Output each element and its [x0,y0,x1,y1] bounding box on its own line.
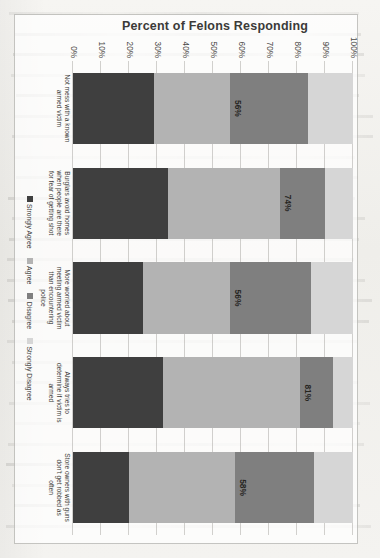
bar-column[interactable]: 56% [73,73,353,144]
bar-segment-agree[interactable] [129,452,235,523]
bar-segment-strongly-agree[interactable] [73,73,154,144]
bar-value-label: 58% [238,479,248,496]
bar-segment-strongly-disagree[interactable] [333,357,353,428]
chart-frame: Percent of Felons Responding 0%10%20%30%… [14,14,358,544]
y-axis-title: Percent of Felons Responding [73,17,357,35]
y-axis-tick-70: 70% [265,42,274,58]
legend-label: Strongly Agree [27,204,34,249]
bar-segment-strongly-agree[interactable] [73,168,168,239]
plot-area-wrapper: Percent of Felons Responding 0%10%20%30%… [15,15,357,543]
legend-item-strongly-disagree[interactable]: Strongly Disagree [27,338,34,401]
bar-column[interactable]: 74% [73,168,353,239]
bar-segment-strongly-agree[interactable] [73,262,143,333]
y-axis-tick-20: 20% [125,42,134,58]
x-axis-label-2: More worried about meeting armed victim … [39,262,71,333]
bar-segment-strongly-disagree[interactable] [311,262,353,333]
x-axis-label-1: Burglars avoid homes when people are the… [47,168,71,239]
y-axis-tick-0: 0% [69,46,78,58]
bar-segment-strongly-disagree[interactable] [325,168,353,239]
bar-segment-strongly-disagree[interactable] [314,452,353,523]
y-axis-tick-50: 50% [209,42,218,58]
legend-label: Disagree [27,302,34,329]
y-axis-title-text: Percent of Felons Responding [122,19,308,33]
bar-column[interactable]: 58% [73,452,353,523]
legend-label: Agree [27,266,34,284]
legend-swatch-icon [27,196,33,202]
bar-value-label: 56% [233,100,243,117]
x-axis-label-4: Store owners with guns don't get robbed … [47,452,71,523]
bar-column[interactable]: 81% [73,357,353,428]
bar-value-label: 81% [303,384,313,401]
bar-value-label: 56% [233,290,243,307]
plot-area: 56%74%56%81%58% [73,61,353,535]
y-axis-tick-30: 30% [153,42,162,58]
legend-swatch-icon [27,338,33,344]
bar-segment-strongly-agree[interactable] [73,452,129,523]
bar-segment-strongly-disagree[interactable] [308,73,353,144]
legend-label: Strongly Disagree [27,346,34,400]
chart-legend: Strongly AgreeAgreeDisagreeStrongly Disa… [21,61,39,535]
y-axis-tick-80: 80% [293,42,302,58]
x-axis-category-labels: Not mess with a known armed victimBurgla… [45,61,71,535]
legend-item-disagree[interactable]: Disagree [27,293,34,329]
y-axis-tick-labels: 0%10%20%30%40%50%60%70%80%90%100% [73,35,353,61]
y-axis-tick-10: 10% [97,42,106,58]
bar-column[interactable]: 56% [73,262,353,333]
rotated-chart-stage: Percent of Felons Responding 0%10%20%30%… [0,0,380,558]
bar-value-label: 74% [283,195,293,212]
legend-swatch-icon [27,293,33,299]
legend-swatch-icon [27,258,33,264]
bar-segment-agree[interactable] [154,73,230,144]
y-axis-tick-90: 90% [321,42,330,58]
x-axis-label-3: Always tries to determine if victim is a… [47,357,71,428]
bar-series-group: 56%74%56%81%58% [73,61,353,535]
bar-segment-agree[interactable] [143,262,230,333]
bar-segment-agree[interactable] [168,168,280,239]
y-axis-tick-40: 40% [181,42,190,58]
bar-segment-strongly-agree[interactable] [73,357,163,428]
bar-segment-agree[interactable] [163,357,300,428]
y-axis-tick-100: 100% [349,37,358,58]
legend-item-strongly-agree[interactable]: Strongly Agree [27,196,34,249]
legend-item-agree[interactable]: Agree [27,258,34,285]
y-axis-tick-60: 60% [237,42,246,58]
x-axis-label-0: Not mess with a known armed victim [55,73,71,144]
